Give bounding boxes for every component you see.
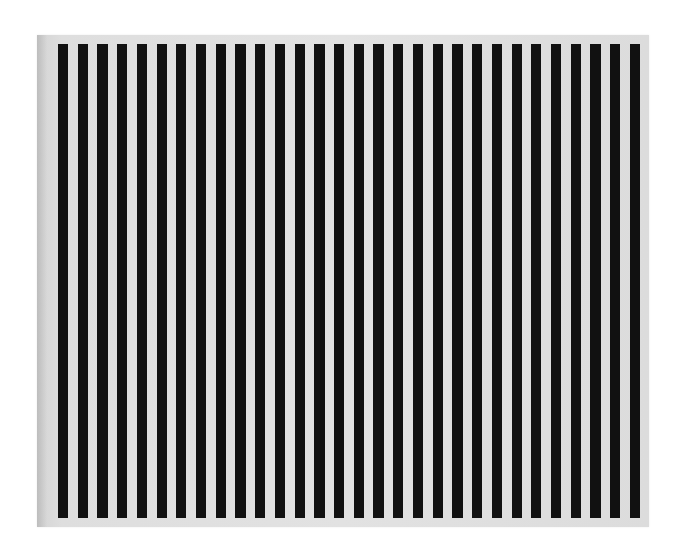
- black-stripe: [492, 44, 502, 518]
- black-stripe: [117, 44, 127, 518]
- black-stripe: [590, 44, 600, 518]
- black-stripe: [472, 44, 482, 518]
- black-stripe: [334, 44, 344, 518]
- black-stripe: [137, 44, 147, 518]
- black-stripe: [78, 44, 88, 518]
- black-stripe: [196, 44, 206, 518]
- stripe-field: [58, 44, 640, 518]
- black-stripe: [531, 44, 541, 518]
- black-stripe: [314, 44, 324, 518]
- black-stripe: [551, 44, 561, 518]
- black-stripe: [216, 44, 226, 518]
- black-stripe: [275, 44, 285, 518]
- black-stripe: [393, 44, 403, 518]
- black-stripe: [571, 44, 581, 518]
- black-stripe: [452, 44, 462, 518]
- black-stripe: [97, 44, 107, 518]
- black-stripe: [512, 44, 522, 518]
- black-stripe: [58, 44, 68, 518]
- black-stripe: [373, 44, 383, 518]
- black-stripe: [157, 44, 167, 518]
- black-stripe: [295, 44, 305, 518]
- black-stripe: [354, 44, 364, 518]
- black-stripe: [255, 44, 265, 518]
- black-stripe: [610, 44, 620, 518]
- black-stripe: [176, 44, 186, 518]
- black-stripe: [413, 44, 423, 518]
- black-stripe: [433, 44, 443, 518]
- black-stripe: [235, 44, 245, 518]
- black-stripe: [630, 44, 640, 518]
- painting-canvas: [37, 35, 649, 527]
